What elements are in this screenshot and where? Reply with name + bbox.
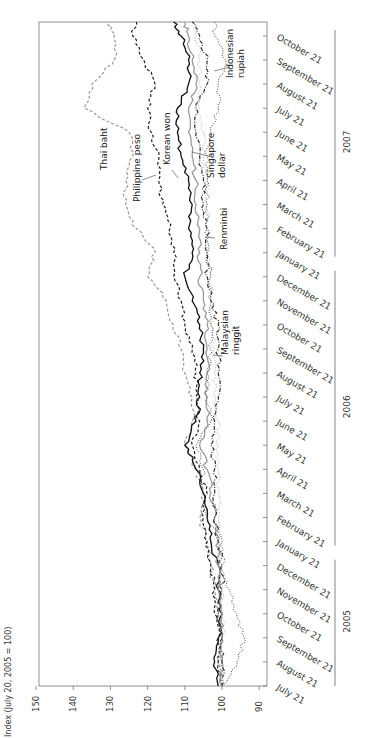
series-label-korean-won: Korean won [162,112,172,165]
date-tick-label: April 21 [275,177,310,203]
value-axis-ticks: 15014013012011010090 [31,686,264,712]
series-label-indonesian-rupiah: rupiah [236,49,246,78]
date-tick-label: June 21 [274,417,309,443]
date-tick-label: April 21 [275,465,310,491]
series-label-indonesian-rupiah: Indonesian [225,29,235,78]
label-leader-line [142,175,156,180]
series-label-philippine-peso: Philippine peso [132,133,142,202]
series-label-renminbi: Renminbi [219,208,229,250]
year-group-brackets: 200520062007 [335,30,352,686]
value-tick-label: 90 [254,701,264,712]
year-label: 2006 [342,395,352,418]
date-tick-label: May 21 [275,152,309,177]
value-tick-label: 140 [68,696,78,712]
value-tick-label: 130 [105,696,115,712]
value-axis-title: Index (July 20, 2005 = 100) [4,627,13,737]
date-tick-label: July 21 [274,393,306,417]
exchange-rate-index-chart: 15014013012011010090 July 21August 21Sep… [0,0,369,738]
value-tick-label: 100 [217,696,227,712]
series-korean-won [174,22,222,686]
year-label: 2007 [342,130,352,153]
label-leader-line [172,170,178,178]
series-label-thai-baht: Thai baht [99,127,109,171]
date-tick-label: June 21 [274,128,309,154]
date-axis-ticks: July 21August 21September 21October 21No… [263,32,335,706]
series-label-malaysian-ringgit: ringgit [231,325,241,355]
value-tick-label: 120 [143,696,153,712]
year-label: 2005 [342,610,352,633]
date-tick-label: May 21 [275,441,309,466]
date-tick-label: July 21 [274,682,306,706]
series-label-malaysian-ringgit: Malaysian [220,310,230,355]
series-label-singapore-dollar: Singapore [206,132,216,178]
series-thai-baht [84,22,222,686]
value-tick-label: 110 [180,696,190,712]
date-tick-label: July 21 [274,104,306,128]
series-label-singapore-dollar: dollar [217,152,227,178]
series-labels: Thai bahtPhilippine pesoKorean wonSingap… [99,29,246,356]
value-tick-label: 150 [31,696,41,712]
